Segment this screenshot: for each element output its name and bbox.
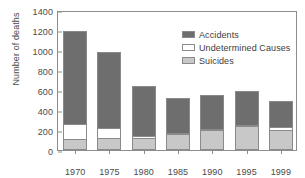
bar-segment-accidents[interactable] [97,52,121,128]
y-tick-label: 1200 [33,27,58,37]
y-tick-label: 400 [38,107,58,117]
legend-item[interactable]: Suicides [182,55,290,66]
bar-segment-accidents[interactable] [166,98,190,134]
y-tick-label: 0 [48,147,58,157]
x-tick-label: 1985 [168,167,188,177]
y-axis-title: Number of deaths [11,0,21,109]
x-tick-mark [109,150,110,154]
bar-group[interactable] [166,98,190,151]
legend-item[interactable]: Undetermined Causes [182,42,290,53]
chart-legend: AccidentsUndetermined CausesSuicides [182,29,290,68]
legend-label: Undetermined Causes [199,43,290,53]
x-tick-mark [212,150,213,154]
bar-segment-suicides[interactable] [63,139,87,150]
y-tick-label: 200 [38,127,58,137]
x-tick-mark [178,150,179,154]
x-tick-label: 1970 [65,167,85,177]
bar-segment-accidents[interactable] [200,95,224,129]
x-tick-mark [247,150,248,154]
x-tick-label: 1980 [133,167,153,177]
bar-segment-suicides[interactable] [97,138,121,150]
x-tick-label: 1995 [236,167,256,177]
bar-group[interactable] [132,86,156,150]
bar-group[interactable] [235,91,259,151]
legend-item[interactable]: Accidents [182,29,290,40]
legend-swatch-icon [182,44,195,51]
y-tick-label: 800 [38,67,58,77]
bar-segment-accidents[interactable] [235,91,259,125]
stacked-bar-chart: Number of deaths 02004006008001000120014… [0,0,305,178]
y-tick-label: 1000 [33,47,58,57]
y-tick-label: 1400 [33,7,58,17]
x-tick-mark [281,150,282,154]
bar-segment-suicides[interactable] [235,126,259,151]
y-tick-mark [58,152,62,153]
bar-group[interactable] [63,31,87,150]
bar-segment-suicides[interactable] [200,130,224,151]
x-tick-label: 1990 [202,167,222,177]
legend-swatch-icon [182,57,195,64]
bar-group[interactable] [200,95,224,151]
bar-segment-accidents[interactable] [132,86,156,136]
bar-segment-suicides[interactable] [269,130,293,151]
bar-group[interactable] [269,101,293,150]
legend-label: Suicides [199,56,234,66]
x-tick-label: 1999 [271,167,291,177]
bar-segment-accidents[interactable] [63,31,87,124]
bar-segment-suicides[interactable] [132,138,156,150]
bar-segment-undetermined-causes[interactable] [63,124,87,140]
bar-segment-undetermined-causes[interactable] [97,128,121,139]
bar-segment-suicides[interactable] [166,134,190,150]
legend-label: Accidents [199,30,239,40]
bar-segment-accidents[interactable] [269,101,293,127]
bar-group[interactable] [97,52,121,150]
x-tick-mark [144,150,145,154]
legend-swatch-icon [182,31,195,38]
y-tick-label: 600 [38,87,58,97]
x-tick-label: 1975 [99,167,119,177]
x-tick-mark [75,150,76,154]
